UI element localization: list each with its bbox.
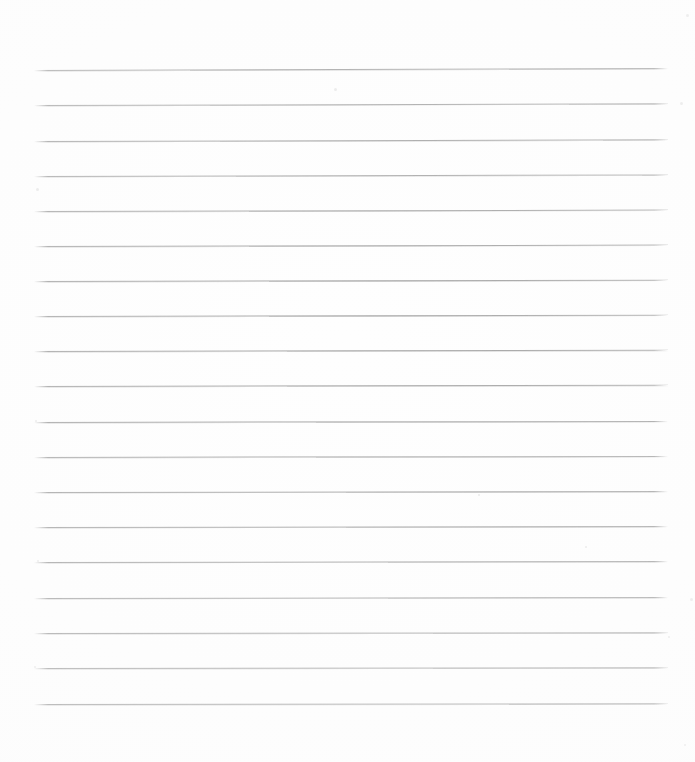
ruled-line	[34, 561, 668, 563]
ruled-line	[34, 491, 668, 493]
ruled-line	[34, 385, 668, 387]
ruled-line	[34, 526, 668, 528]
ruled-lines-layer	[0, 0, 695, 762]
lined-paper-page	[0, 0, 695, 762]
ruled-line	[34, 68, 668, 71]
ruled-line	[34, 703, 668, 705]
ruled-line	[34, 667, 668, 669]
ruled-line	[34, 315, 668, 317]
ruled-line	[34, 421, 668, 423]
ruled-line	[34, 280, 668, 282]
ruled-line	[34, 174, 668, 177]
ruled-line	[34, 103, 668, 106]
ruled-line	[34, 139, 668, 142]
ruled-line	[34, 350, 668, 352]
ruled-line	[34, 210, 668, 212]
ruled-line	[34, 597, 668, 599]
ruled-line	[34, 632, 668, 634]
ruled-line	[34, 245, 668, 247]
ruled-line	[34, 456, 668, 458]
